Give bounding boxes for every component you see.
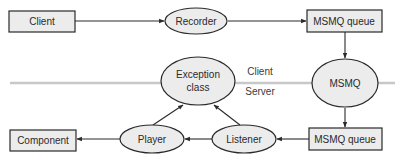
node-msmq-queue-top: MSMQ queue (307, 10, 382, 32)
node-listener: Listener (212, 125, 276, 153)
svg-text:MSMQ: MSMQ (329, 78, 360, 89)
server-boundary-label: Server (245, 86, 275, 97)
msmq-flow-diagram: Client Server Client Recorder MSMQ queue… (0, 0, 403, 166)
edge-player-exception (153, 105, 183, 125)
svg-text:Component: Component (17, 135, 69, 146)
svg-text:Exception: Exception (176, 69, 220, 80)
svg-text:Client: Client (29, 16, 55, 27)
node-client: Client (9, 11, 75, 32)
node-player: Player (120, 125, 184, 153)
svg-text:Player: Player (138, 134, 167, 145)
svg-text:MSMQ queue: MSMQ queue (313, 16, 375, 27)
svg-text:class: class (187, 82, 210, 93)
svg-text:Listener: Listener (226, 134, 262, 145)
svg-text:Recorder: Recorder (175, 16, 217, 27)
node-exception-class: Exception class (161, 57, 235, 105)
node-component: Component (10, 130, 76, 151)
node-msmq-queue-bottom: MSMQ queue (309, 128, 382, 150)
svg-text:MSMQ queue: MSMQ queue (314, 134, 376, 145)
node-msmq: MSMQ (312, 59, 378, 107)
node-recorder: Recorder (165, 8, 227, 34)
client-boundary-label: Client (247, 66, 273, 77)
edge-listener-exception (214, 105, 240, 125)
